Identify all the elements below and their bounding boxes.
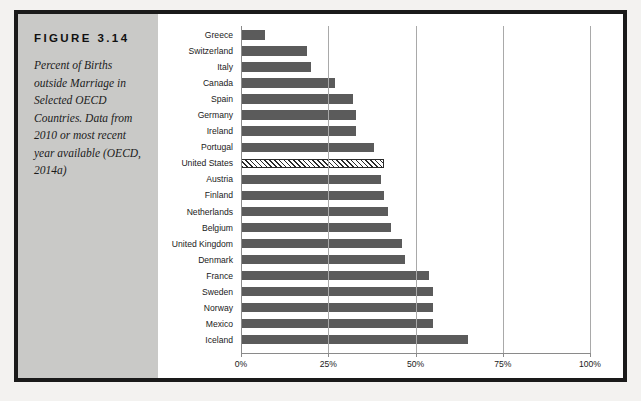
gridline: [416, 26, 417, 353]
y-axis-label: Portugal: [158, 139, 237, 155]
bar: [241, 126, 356, 135]
y-axis-label: United Kingdom: [158, 236, 237, 252]
y-axis-label: Mexico: [158, 316, 237, 332]
plot-area: GreeceSwitzerlandItalyCanadaSpainGermany…: [158, 14, 623, 378]
bar: [241, 223, 391, 232]
bar-row: [241, 236, 615, 252]
y-axis-labels: GreeceSwitzerlandItalyCanadaSpainGermany…: [158, 27, 237, 348]
gridline: [503, 26, 504, 353]
y-axis-label: United States: [158, 155, 237, 171]
bar: [241, 30, 265, 39]
bar: [241, 271, 429, 280]
bar-row: [241, 187, 615, 203]
x-axis-label: 50%: [407, 359, 424, 369]
bar-row: [241, 300, 615, 316]
bar-row: [241, 268, 615, 284]
bar-row: [241, 284, 615, 300]
bar: [241, 303, 433, 312]
bar-row: [241, 139, 615, 155]
bar: [241, 335, 468, 344]
y-axis-label: Finland: [158, 187, 237, 203]
bar-row: [241, 59, 615, 75]
bar-chart: GreeceSwitzerlandItalyCanadaSpainGermany…: [158, 14, 623, 378]
bar: [241, 207, 388, 216]
bar: [241, 94, 353, 103]
bar: [241, 78, 335, 87]
bar: [241, 239, 402, 248]
y-axis-label: Sweden: [158, 284, 237, 300]
figure-number: FIGURE 3.14: [34, 32, 144, 44]
bar-row: [241, 252, 615, 268]
y-axis-label: Spain: [158, 91, 237, 107]
y-axis-label: Norway: [158, 300, 237, 316]
bar: [241, 191, 384, 200]
y-axis-label: Germany: [158, 107, 237, 123]
y-axis-label: Austria: [158, 171, 237, 187]
y-axis-label: Greece: [158, 27, 237, 43]
y-axis-label: Switzerland: [158, 43, 237, 59]
gridline: [590, 26, 591, 353]
bar-highlighted: [241, 159, 384, 168]
bar-row: [241, 107, 615, 123]
y-axis-label: Ireland: [158, 123, 237, 139]
bar-row: [241, 91, 615, 107]
bar-row: [241, 171, 615, 187]
y-axis-label: Canada: [158, 75, 237, 91]
x-axis-label: 100%: [579, 359, 601, 369]
bar-row: [241, 204, 615, 220]
bar: [241, 287, 433, 296]
bars-container: [241, 27, 615, 364]
bar: [241, 110, 356, 119]
y-axis-label: Belgium: [158, 220, 237, 236]
bar-row: [241, 220, 615, 236]
x-axis-baseline: [241, 353, 591, 354]
y-axis-label: Denmark: [158, 252, 237, 268]
y-axis-label: Iceland: [158, 332, 237, 348]
y-axis-line: [241, 26, 242, 353]
figure-frame: FIGURE 3.14 Percent of Births outside Ma…: [14, 10, 627, 382]
x-axis-label: 0%: [235, 359, 247, 369]
bar: [241, 46, 307, 55]
bar-row: [241, 155, 615, 171]
y-axis-label: Italy: [158, 59, 237, 75]
caption-panel: FIGURE 3.14 Percent of Births outside Ma…: [18, 14, 158, 378]
bar: [241, 62, 311, 71]
bar-row: [241, 27, 615, 43]
page-root: FIGURE 3.14 Percent of Births outside Ma…: [0, 0, 641, 401]
bar: [241, 175, 381, 184]
bar-row: [241, 332, 615, 348]
x-axis-label: 75%: [494, 359, 511, 369]
bar: [241, 255, 405, 264]
figure-caption: Percent of Births outside Marriage in Se…: [34, 57, 144, 180]
bar: [241, 319, 433, 328]
bar-row: [241, 123, 615, 139]
bar-row: [241, 75, 615, 91]
bar-row: [241, 43, 615, 59]
y-axis-label: France: [158, 268, 237, 284]
gridline: [328, 26, 329, 353]
bar: [241, 143, 374, 152]
bar-row: [241, 316, 615, 332]
y-axis-label: Netherlands: [158, 204, 237, 220]
x-axis-label: 25%: [320, 359, 337, 369]
